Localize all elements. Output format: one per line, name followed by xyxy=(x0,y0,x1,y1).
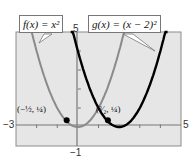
x-max-label: 5 xyxy=(183,120,189,130)
x-min-label: −3 xyxy=(3,120,14,130)
point-right-label: (³⁄₂, ¼) xyxy=(96,104,121,114)
g-callout: g(x) = (x − 2)² xyxy=(88,15,161,33)
plot-area xyxy=(16,32,181,146)
y-min-label: −1 xyxy=(70,148,81,158)
y-max-label: 5 xyxy=(73,24,79,34)
f-callout: f(x) = x² xyxy=(19,15,63,33)
point-right xyxy=(105,117,111,123)
point-left-label: (−½, ¼) xyxy=(17,104,46,114)
point-left xyxy=(64,117,70,123)
